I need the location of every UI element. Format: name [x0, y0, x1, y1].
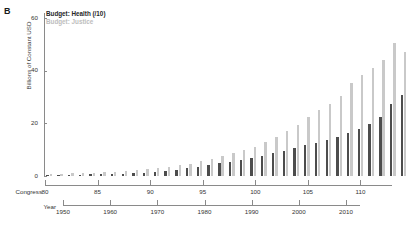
bar-justice: [275, 137, 277, 176]
bar-justice: [243, 150, 245, 176]
congress-axis-tick: [255, 180, 256, 185]
bar-justice: [50, 174, 52, 176]
congress-axis-tick-label: 110: [345, 188, 375, 195]
bar-justice: [318, 110, 320, 176]
bar-health: [315, 143, 317, 176]
bar-justice: [168, 167, 170, 176]
year-axis-tick: [299, 200, 300, 205]
bar-health: [401, 95, 403, 177]
bar-justice: [382, 60, 384, 176]
year-axis-tick-label: 1960: [93, 208, 127, 215]
bar-health: [326, 140, 328, 176]
bar-justice: [350, 83, 352, 176]
congress-axis-tick: [203, 180, 204, 185]
y-axis-tick: [44, 176, 47, 177]
bar-group: [358, 13, 369, 176]
year-axis-tick: [252, 200, 253, 205]
bar-justice: [211, 159, 213, 176]
congress-axis-tick: [308, 180, 309, 185]
year-axis-line: [63, 205, 360, 206]
bar-health: [240, 160, 242, 176]
bar-health: [122, 174, 124, 176]
congress-axis-tick-label: 85: [83, 188, 113, 195]
chart-figure: B Billions of Constant USD 0204060 Budge…: [0, 0, 416, 226]
year-axis-tick-label: 1980: [188, 208, 222, 215]
year-axis-tick-label: 1970: [140, 208, 174, 215]
congress-axis-tick-label: 100: [240, 188, 270, 195]
bar-health: [57, 175, 59, 176]
bar-health: [111, 174, 113, 176]
bar-health: [175, 170, 177, 176]
year-axis-tick-label: 1990: [235, 208, 269, 215]
congress-axis-tick-label: 105: [293, 188, 323, 195]
bar-justice: [179, 165, 181, 176]
bar-group: [68, 13, 79, 176]
bar-group: [175, 13, 186, 176]
panel-label: B: [4, 6, 11, 16]
bar-health: [347, 133, 349, 176]
congress-axis-tick-label: 90: [135, 188, 165, 195]
y-axis-tick-label: 60: [12, 15, 38, 21]
bar-justice: [221, 156, 223, 176]
y-axis-tick-label: 40: [12, 67, 38, 73]
bar-group: [186, 13, 197, 176]
bar-health: [390, 104, 392, 176]
y-axis-tick-label: 0: [12, 173, 38, 179]
congress-axis-tick: [360, 180, 361, 185]
bar-justice: [60, 174, 62, 176]
bar-health: [272, 153, 274, 176]
congress-axis-tick: [98, 180, 99, 185]
bar-group: [143, 13, 154, 176]
bar-group: [111, 13, 122, 176]
bar-justice: [329, 104, 331, 176]
bar-justice: [82, 173, 84, 176]
bar-group: [132, 13, 143, 176]
bar-health: [336, 137, 338, 176]
bar-justice: [103, 172, 105, 176]
bar-health: [154, 172, 156, 176]
bar-group: [272, 13, 283, 176]
bar-health: [79, 175, 81, 176]
bar-health: [379, 117, 381, 176]
bar-group: [154, 13, 165, 176]
bar-group: [164, 13, 175, 176]
bar-justice: [200, 161, 202, 176]
bar-health: [68, 175, 70, 176]
bar-health: [164, 171, 166, 176]
congress-axis-tick-label: 95: [188, 188, 218, 195]
bar-justice: [340, 96, 342, 176]
bar-health: [304, 145, 306, 176]
bar-group: [347, 13, 358, 176]
bar-group: [46, 13, 57, 176]
congress-axis-tick: [150, 180, 151, 185]
bar-group: [401, 13, 412, 176]
congress-axis-tick-label: 80: [30, 188, 60, 195]
bar-group: [368, 13, 379, 176]
bar-group: [326, 13, 337, 176]
bar-justice: [232, 153, 234, 176]
bar-justice: [146, 169, 148, 176]
year-axis-tick: [157, 200, 158, 205]
bar-health: [218, 163, 220, 176]
bar-health: [186, 168, 188, 176]
bar-justice: [136, 170, 138, 176]
congress-axis-tick: [45, 180, 46, 185]
year-axis-tick-label: 1950: [46, 208, 80, 215]
y-axis-tick-label: 20: [12, 120, 38, 126]
bar-group: [218, 13, 229, 176]
bar-justice: [125, 171, 127, 176]
plot-area: [45, 13, 410, 176]
bar-justice: [307, 117, 309, 176]
bar-health: [100, 174, 102, 176]
year-axis-tick: [63, 200, 64, 205]
bar-health: [132, 173, 134, 176]
bar-justice: [393, 43, 395, 176]
bar-group: [79, 13, 90, 176]
bar-health: [250, 158, 252, 176]
bar-group: [315, 13, 326, 176]
year-axis-tick-label: 2010: [329, 208, 363, 215]
bar-group: [100, 13, 111, 176]
bar-health: [197, 167, 199, 176]
year-axis-tick: [346, 200, 347, 205]
bar-group: [57, 13, 68, 176]
